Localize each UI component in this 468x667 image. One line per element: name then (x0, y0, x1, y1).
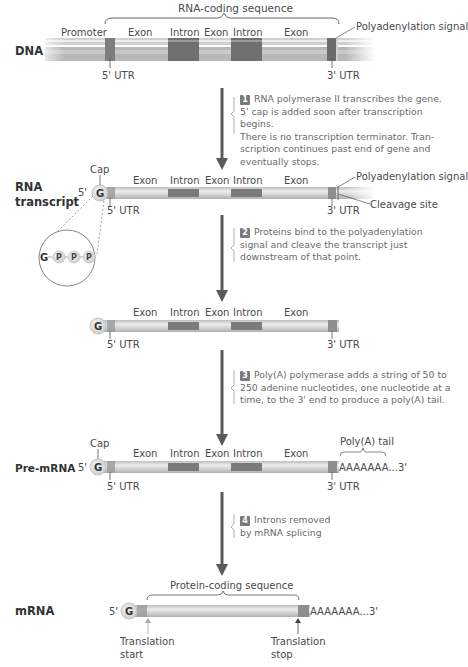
dna-double-strand (35, 36, 375, 63)
pre-mrna-strand (103, 461, 339, 473)
dna-3utr-label: 3' UTR (327, 70, 360, 81)
premrna-segment-exon-3: Exon (284, 448, 308, 459)
cap-detail-p3: P (86, 252, 92, 263)
dna-segment-intron-2: Intron (233, 27, 263, 38)
rna-cap-g: G (96, 188, 104, 199)
rna-5utr-label: 5' UTR (107, 205, 140, 216)
polya-brace (340, 448, 386, 456)
mrna-five-prime-label: 5' (109, 606, 118, 617)
step4-number-badge: 4 (240, 516, 250, 526)
premrna-cap-label: Cap (90, 438, 109, 449)
cleaved-segment-exon-3: Exon (284, 307, 308, 318)
rna-segment-intron-2: Intron (233, 175, 263, 186)
polya-tail-label: Poly(A) tail (340, 436, 394, 447)
cleaved-cap-g: G (94, 321, 102, 332)
cap-detail-p1: P (56, 252, 62, 263)
premrna-five-prime-label: 5' (78, 462, 87, 473)
rna-transcript-label-line1: RNA (15, 180, 42, 194)
dna-label: DNA (15, 44, 43, 58)
step1-description: 1RNA polymerase II transcribes the gene.… (240, 93, 455, 169)
rna-segment-intron-1: Intron (170, 175, 200, 186)
step4-description: 4Introns removed by mRNA splicing (240, 514, 330, 539)
translation-stop-label-line1: Translation (271, 636, 326, 647)
rna-segment-exon-1: Exon (133, 175, 157, 186)
cleaved-5utr-label: 5' UTR (107, 339, 140, 350)
premrna-polya-sequence: AAAAAAA...3' (339, 462, 407, 473)
premrna-3utr-label: 3' UTR (327, 481, 360, 492)
rna-segment-exon-3: Exon (284, 175, 308, 186)
dna-segment-promoter: Promoter (61, 27, 107, 38)
rna-3utr-label: 3' UTR (327, 205, 360, 216)
dna-polyadenylation-signal-label: Polyadenylation signal (356, 21, 468, 32)
protein-coding-brace (147, 591, 299, 600)
premrna-segment-exon-2: Exon (205, 448, 229, 459)
rna-polyadenylation-signal-label: Polyadenylation signal (356, 171, 468, 182)
premrna-segment-intron-2: Intron (233, 448, 263, 459)
dna-segment-intron-1: Intron (170, 27, 200, 38)
premrna-cap-g: G (94, 462, 102, 473)
translation-stop-label-line2: stop (271, 649, 293, 660)
cleaved-3utr-label: 3' UTR (327, 339, 360, 350)
dna-segment-exon-2: Exon (204, 27, 228, 38)
cap-detail-g: G (40, 252, 48, 263)
cap-detail-p2: P (71, 252, 77, 263)
dna-5utr-label: 5' UTR (102, 70, 135, 81)
mrna-label: mRNA (15, 604, 54, 618)
step2-description: 2Proteins bind to the polyadenylation si… (240, 226, 423, 264)
rna-transcript-label-line2: transcript (15, 195, 79, 209)
rna-cleavage-site-label: Cleavage site (370, 199, 438, 210)
cleaved-segment-exon-1: Exon (133, 307, 157, 318)
rna-coding-sequence-label: RNA-coding sequence (178, 3, 293, 14)
dna-segment-exon-1: Exon (128, 27, 152, 38)
translation-start-label-line1: Translation (120, 636, 175, 647)
cleaved-segment-exon-2: Exon (205, 307, 229, 318)
rna-transcript-strand (103, 185, 375, 201)
mrna-cap-g: G (125, 606, 133, 617)
cleaved-transcript-strand (103, 320, 339, 332)
step3-description: 3Poly(A) polymerase adds a string of 50 … (240, 369, 451, 407)
step2-number-badge: 2 (240, 228, 250, 238)
premrna-label: Pre-mRNA (15, 461, 75, 475)
cleaved-segment-intron-1: Intron (170, 307, 200, 318)
mrna-polya-sequence: AAAAAAA...3' (310, 606, 378, 617)
mrna-strand (134, 605, 310, 617)
protein-coding-sequence-label: Protein-coding sequence (170, 580, 293, 591)
premrna-5utr-label: 5' UTR (107, 481, 140, 492)
step3-number-badge: 3 (240, 371, 250, 381)
rna-segment-exon-2: Exon (205, 175, 229, 186)
rna-cap-label: Cap (90, 164, 109, 175)
step1-number-badge: 1 (240, 95, 250, 105)
premrna-segment-intron-1: Intron (170, 448, 200, 459)
translation-start-label-line2: start (120, 649, 143, 660)
dna-segment-exon-3: Exon (284, 27, 308, 38)
cleaved-segment-intron-2: Intron (233, 307, 263, 318)
premrna-segment-exon-1: Exon (133, 448, 157, 459)
rna-five-prime-label: 5' (78, 187, 87, 198)
rna-coding-brace (105, 13, 339, 24)
